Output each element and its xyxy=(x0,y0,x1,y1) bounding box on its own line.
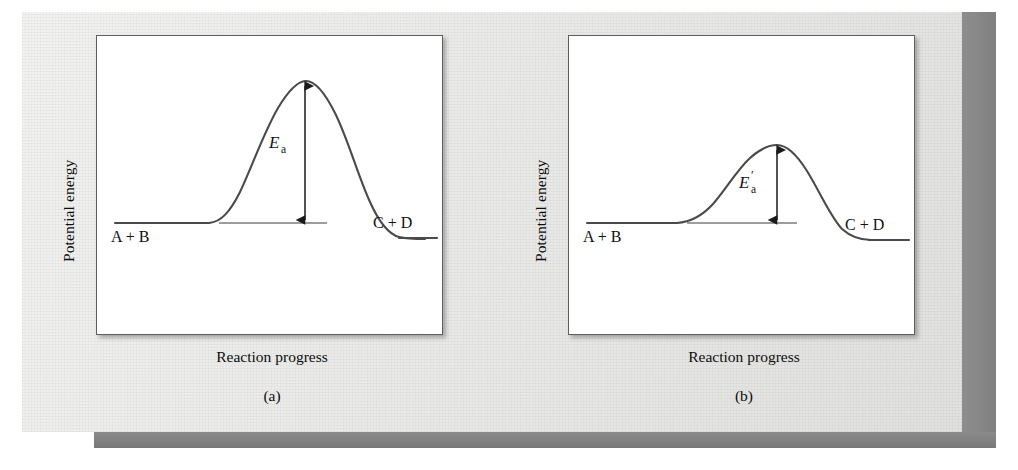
right-border-band xyxy=(962,12,996,432)
activation-energy-symbol-a: E xyxy=(268,133,280,152)
plot-panel-a: E a A + B C + D xyxy=(96,35,443,335)
plot-panel-b: E ′ a A + B C + D xyxy=(568,35,915,335)
panel-tag-b-text: (b) xyxy=(735,387,753,404)
figure-plate: Potential energy E xyxy=(22,12,1018,458)
panel-tag-a: (a) xyxy=(222,387,322,405)
energy-diagram-a: E a A + B C + D xyxy=(97,36,442,334)
x-axis-label-b: Reaction progress xyxy=(644,348,844,366)
activation-energy-subscript-a: a xyxy=(281,143,286,155)
x-axis-label-a-text: Reaction progress xyxy=(216,348,327,365)
y-axis-label-b: Potential energy xyxy=(532,160,550,262)
reactant-label-a: A + B xyxy=(111,228,149,245)
x-axis-label-b-text: Reaction progress xyxy=(688,348,799,365)
product-label-b: C + D xyxy=(845,216,884,233)
product-label-a: C + D xyxy=(373,214,412,231)
activation-energy-prime-b: ′ xyxy=(751,168,754,182)
activation-energy-subscript-b: a xyxy=(751,183,756,195)
x-axis-label-a: Reaction progress xyxy=(172,348,372,366)
panel-tag-a-text: (a) xyxy=(263,387,280,404)
activation-energy-symbol-b: E xyxy=(738,173,750,192)
panel-tag-b: (b) xyxy=(694,387,794,405)
y-axis-label-b-text: Potential energy xyxy=(532,160,549,262)
y-axis-label-a-text: Potential energy xyxy=(60,160,77,262)
bottom-border-band xyxy=(94,432,996,448)
y-axis-label-a: Potential energy xyxy=(60,160,78,262)
energy-curve-b xyxy=(677,145,871,240)
energy-diagram-b: E ′ a A + B C + D xyxy=(569,36,914,334)
reactant-label-b: A + B xyxy=(583,228,621,245)
